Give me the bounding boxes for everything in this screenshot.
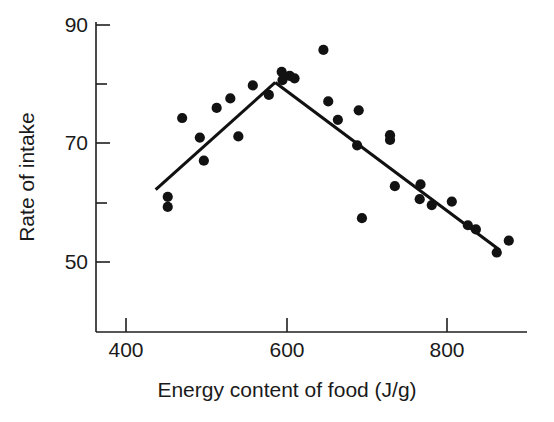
x-axis-title: Energy content of food (J/g) <box>157 378 416 401</box>
data-point <box>333 115 343 125</box>
x-tick-label-600: 600 <box>269 338 304 361</box>
data-point <box>163 202 173 212</box>
x-axis: 400 600 800 <box>96 318 527 361</box>
data-point <box>289 73 299 83</box>
data-point <box>385 135 395 145</box>
y-tick-label-70: 70 <box>65 131 88 154</box>
y-axis: 90 70 50 <box>65 13 110 332</box>
fit-line-group <box>156 82 500 250</box>
data-point-group <box>163 45 514 258</box>
data-point <box>323 96 333 106</box>
data-point <box>177 113 187 123</box>
data-point <box>471 224 481 234</box>
scatter-plot-canvas: 90 70 50 400 600 800 Energy content of f… <box>0 0 554 422</box>
data-point <box>233 131 243 141</box>
data-point <box>163 192 173 202</box>
data-point <box>264 90 274 100</box>
ascending-segment <box>156 82 276 189</box>
y-tick-label-90: 90 <box>65 13 88 36</box>
data-point <box>248 80 258 90</box>
data-point <box>415 194 425 204</box>
y-axis-title: Rate of intake <box>15 112 38 242</box>
data-point <box>354 105 364 115</box>
data-point <box>504 236 514 246</box>
data-point <box>199 156 209 166</box>
data-point <box>352 140 362 150</box>
data-point <box>415 179 425 189</box>
chart-figure: 90 70 50 400 600 800 Energy content of f… <box>0 0 554 422</box>
data-point <box>195 132 205 142</box>
data-point <box>225 93 235 103</box>
x-tick-label-400: 400 <box>108 338 143 361</box>
data-point <box>212 103 222 113</box>
data-point <box>492 247 502 257</box>
data-point <box>357 213 367 223</box>
y-tick-label-50: 50 <box>65 250 88 273</box>
x-tick-label-800: 800 <box>429 338 464 361</box>
data-point <box>390 181 400 191</box>
data-point <box>447 196 457 206</box>
data-point <box>427 200 437 210</box>
data-point <box>318 45 328 55</box>
